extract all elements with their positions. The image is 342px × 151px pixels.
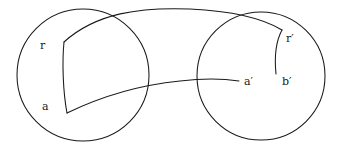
diagram-figure: r a r′ a′ b′ xyxy=(0,0,342,151)
right-small-arc xyxy=(275,30,282,74)
quadrilateral-left-edge xyxy=(63,42,67,113)
lower-connecting-arc xyxy=(67,79,239,113)
label-b-prime: b′ xyxy=(282,76,292,87)
label-r-prime: r′ xyxy=(286,33,294,44)
left-neighborhood-circle xyxy=(17,9,149,141)
right-neighborhood-circle xyxy=(197,12,325,140)
label-a: a xyxy=(42,101,49,112)
label-r: r xyxy=(40,40,45,51)
upper-connecting-arc xyxy=(64,9,282,42)
label-a-prime: a′ xyxy=(244,76,253,87)
